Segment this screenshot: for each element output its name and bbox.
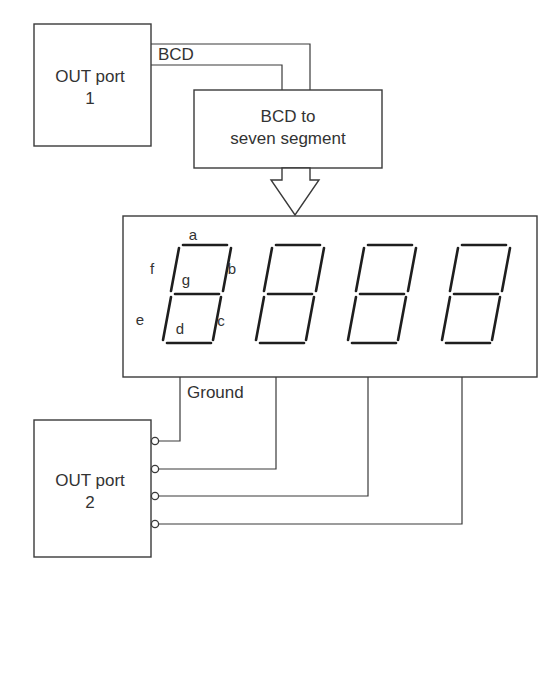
out-port-1-number: 1 bbox=[85, 89, 94, 108]
port-2-pin-1 bbox=[151, 437, 158, 444]
ground-wire bbox=[158, 377, 180, 441]
bcd-wire-lower bbox=[151, 65, 282, 90]
out-port-1-label: OUT port bbox=[55, 67, 125, 86]
display-box bbox=[123, 216, 537, 377]
out-port-1-block: OUT port 1 bbox=[34, 24, 151, 146]
decoder-label-line1: BCD to bbox=[261, 107, 316, 126]
decoder-block: BCD to seven segment bbox=[194, 90, 382, 168]
segment-bus-arrow bbox=[271, 168, 319, 215]
segment-label-e: e bbox=[136, 311, 144, 328]
port-2-pin-4 bbox=[151, 520, 158, 527]
out-port-2-label: OUT port bbox=[55, 471, 125, 490]
segment-label-d: d bbox=[176, 320, 184, 337]
segment-label-a: a bbox=[189, 226, 198, 243]
port-2-pin-2 bbox=[151, 465, 158, 472]
port-2-pin-3 bbox=[151, 492, 158, 499]
display-block: a b c d e f g bbox=[123, 216, 537, 377]
segment-label-b: b bbox=[228, 260, 236, 277]
out-port-2-block: OUT port 2 bbox=[34, 420, 159, 557]
out-port-2-number: 2 bbox=[85, 493, 94, 512]
bcd-bus: BCD bbox=[151, 44, 310, 90]
diagram-canvas: OUT port 1 BCD BCD to seven segment a b … bbox=[0, 0, 560, 681]
segment-label-c: c bbox=[217, 312, 225, 329]
digit-select-wires: Ground bbox=[158, 377, 462, 524]
bcd-bus-label: BCD bbox=[158, 45, 194, 64]
segment-label-g: g bbox=[182, 271, 190, 288]
ground-label: Ground bbox=[187, 383, 244, 402]
decoder-label-line2: seven segment bbox=[230, 129, 346, 148]
